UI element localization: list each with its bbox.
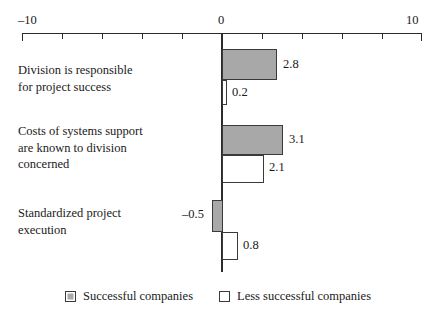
bar-less-successful-1	[222, 155, 264, 183]
bar-value-less-successful-0: 0.2	[232, 85, 248, 99]
legend-item-less-successful: Less successful companies	[219, 289, 371, 303]
legend-label-successful: Successful companies	[83, 289, 193, 303]
category-label-1-line-2: concerned	[18, 156, 203, 173]
bar-value-successful-0: 2.8	[283, 57, 299, 71]
bar-value-less-successful-1: 2.1	[269, 160, 285, 174]
legend-swatch-successful-icon	[65, 291, 76, 302]
bar-less-successful-2	[222, 232, 238, 260]
category-label-0: Division is responsible for project succ…	[18, 62, 203, 95]
category-label-1: Costs of systems support are known to di…	[18, 123, 203, 173]
bar-value-less-successful-2: 0.8	[243, 238, 259, 252]
category-label-2: Standardized project execution	[18, 205, 203, 238]
bar-less-successful-0	[222, 80, 227, 105]
bar-value-successful-1: 3.1	[289, 132, 305, 146]
bar-successful-0	[222, 49, 277, 80]
category-label-0-line-1: for project success	[18, 79, 203, 96]
category-label-1-line-1: are known to division	[18, 140, 203, 157]
category-label-1-line-0: Costs of systems support	[18, 123, 203, 140]
legend-swatch-less-successful-icon	[219, 291, 230, 302]
legend-item-successful: Successful companies	[65, 289, 193, 303]
bar-successful-2	[212, 200, 223, 232]
bar-successful-1	[222, 125, 283, 155]
category-label-2-line-1: execution	[18, 222, 203, 239]
category-label-2-line-0: Standardized project	[18, 205, 203, 222]
chart-legend: Successful companies Less successful com…	[0, 289, 436, 303]
bar-chart: –10 0 10 2.8 0.2 3.1 2.1 –0.5 0.8 Divisi…	[0, 0, 436, 314]
category-label-0-line-0: Division is responsible	[18, 62, 203, 79]
legend-label-less-successful: Less successful companies	[237, 289, 371, 303]
